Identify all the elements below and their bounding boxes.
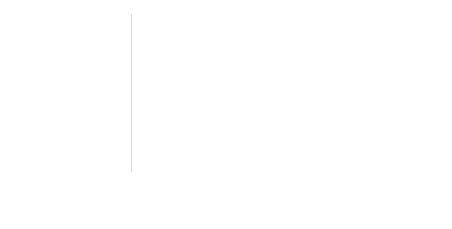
stacked-area-series [131,14,432,172]
plot-area [105,14,432,174]
chart-figure [0,0,452,229]
y-axis-tick-labels [105,14,128,172]
